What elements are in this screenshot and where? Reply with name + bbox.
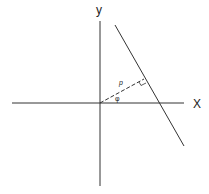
x-axis-label: X	[193, 97, 201, 111]
right-angle-marker	[139, 82, 146, 86]
diagram-canvas: y X p φ	[0, 0, 209, 194]
diagram-svg: y X p φ	[0, 0, 209, 194]
normal-length-label: p	[118, 79, 123, 87]
y-axis-label: y	[96, 3, 102, 17]
angle-label: φ	[115, 95, 120, 103]
slanted-line	[115, 25, 184, 146]
